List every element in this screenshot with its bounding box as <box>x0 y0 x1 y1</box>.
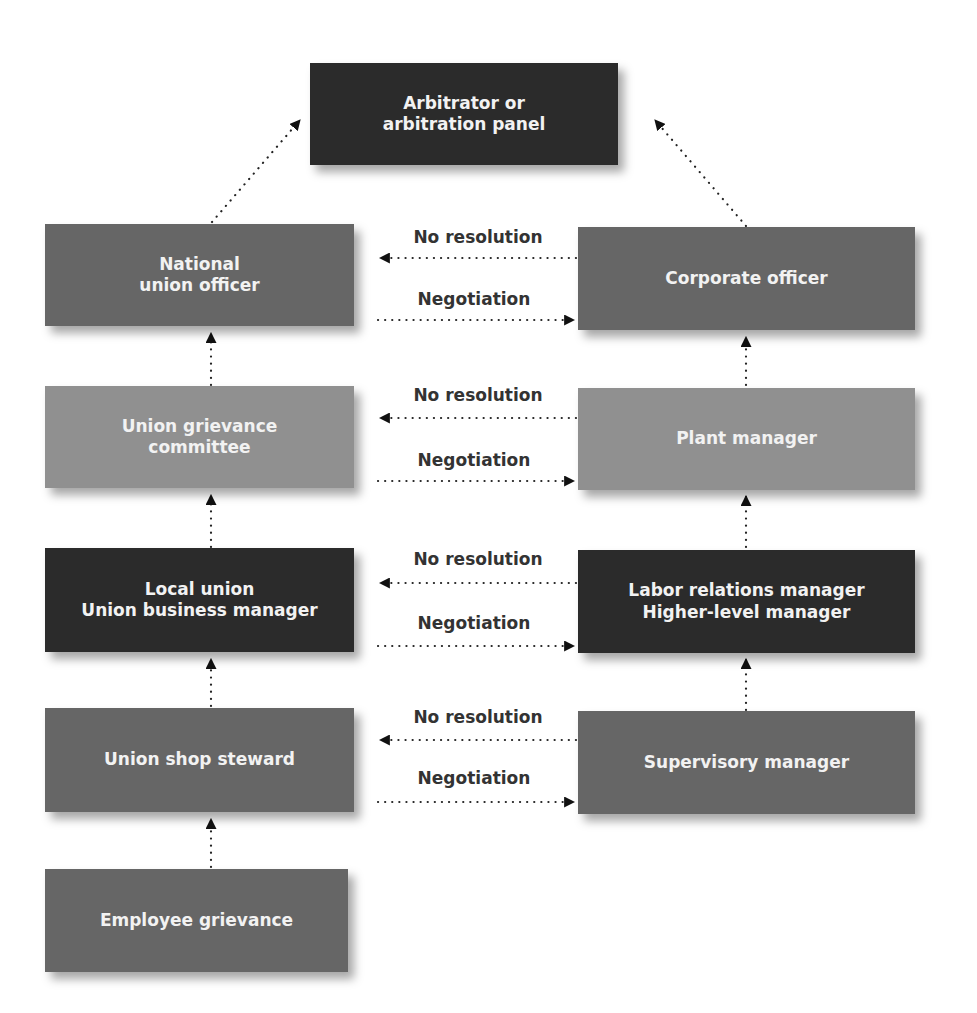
box-text: union officer <box>139 275 259 296</box>
box-text: Corporate officer <box>665 268 827 289</box>
employee-grievance-box: Employee grievance <box>45 869 348 972</box>
no-resolution-label: No resolution <box>378 227 578 247</box>
box-text: Labor relations manager <box>628 580 864 601</box>
box-text: arbitration panel <box>383 114 546 135</box>
box-text: Higher-level manager <box>643 602 851 623</box>
arrow-management-to-arbitrator <box>655 120 746 226</box>
negotiation-label: Negotiation <box>374 289 574 309</box>
no-resolution-label: No resolution <box>378 549 578 569</box>
labor-relations-manager-box: Labor relations manager Higher-level man… <box>578 550 915 653</box>
box-text: Union grievance <box>122 416 278 437</box>
negotiation-label: Negotiation <box>374 613 574 633</box>
box-text: Plant manager <box>676 428 817 449</box>
national-union-officer-box: National union officer <box>45 224 354 326</box>
supervisory-manager-box: Supervisory manager <box>578 711 915 814</box>
box-text: Union business manager <box>81 600 317 621</box>
no-resolution-label: No resolution <box>378 707 578 727</box>
box-text: Local union <box>145 579 255 600</box>
union-grievance-committee-box: Union grievance committee <box>45 386 354 488</box>
union-shop-steward-box: Union shop steward <box>45 708 354 812</box>
box-text: committee <box>148 437 250 458</box>
arbitrator-box: Arbitrator or arbitration panel <box>310 63 618 165</box>
box-text: Arbitrator or <box>403 93 525 114</box>
box-text: Supervisory manager <box>644 752 849 773</box>
corporate-officer-box: Corporate officer <box>578 227 915 330</box>
local-union-box: Local union Union business manager <box>45 548 354 652</box>
negotiation-label: Negotiation <box>374 450 574 470</box>
box-text: National <box>159 254 240 275</box>
negotiation-label: Negotiation <box>374 768 574 788</box>
no-resolution-label: No resolution <box>378 385 578 405</box>
arrow-union-to-arbitrator <box>212 120 300 222</box>
plant-manager-box: Plant manager <box>578 388 915 490</box>
box-text: Union shop steward <box>104 749 295 770</box>
box-text: Employee grievance <box>100 910 293 931</box>
